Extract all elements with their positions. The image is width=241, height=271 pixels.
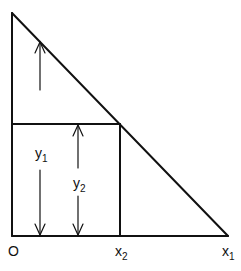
label-y1: y1	[35, 146, 48, 160]
label-x1: x1	[222, 244, 235, 258]
diagram-canvas	[0, 0, 241, 271]
label-origin: O	[8, 244, 19, 258]
label-y2: y2	[73, 176, 86, 190]
label-x2: x2	[115, 244, 128, 258]
